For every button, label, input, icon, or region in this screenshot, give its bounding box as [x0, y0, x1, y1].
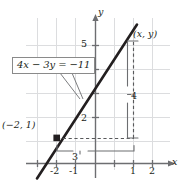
axes [26, 20, 169, 178]
x-tick-label-2: 2 [149, 166, 155, 176]
x-axis-label: x [172, 157, 177, 167]
endpoint-coordinate-label: (x, y) [133, 29, 157, 39]
point-coordinate-label: (−2, 1) [2, 120, 36, 130]
callout-leader-lines [60, 73, 83, 99]
x-tick-label-1: 1 [130, 166, 136, 176]
graph-figure: y x 5 2 -2 -1 1 2 (x, y) (−2, 1) 3 4 4x … [0, 0, 184, 190]
y-tick-label-2: 2 [81, 113, 87, 123]
equation-callout-box: 4x − 3y = −11 [12, 57, 95, 74]
point-marker-minus2-1 [53, 135, 60, 142]
rise-brace-label: 4 [131, 91, 137, 101]
run-brace-label: 3 [72, 152, 78, 162]
x-tick-label-minus1: -1 [69, 166, 78, 176]
x-tick-label-minus2: -2 [50, 166, 59, 176]
y-tick-label-5: 5 [81, 39, 87, 49]
y-axis-label: y [98, 7, 103, 17]
